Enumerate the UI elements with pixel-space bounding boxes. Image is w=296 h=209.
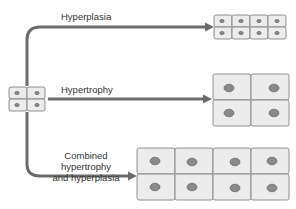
label-hyperplasia: Hyperplasia: [61, 11, 111, 22]
label-combined: Combined hypertrophy and hyperplasia: [38, 150, 134, 183]
label-hypertrophy: Hypertrophy: [61, 84, 113, 95]
arrow-hyperplasia: [27, 23, 214, 87]
label-combined-line1: Combined hypertrophy: [38, 150, 134, 172]
combined-cells: [137, 148, 289, 200]
hypertrophy-cells: [213, 74, 289, 126]
label-combined-line2: and hyperplasia: [38, 172, 134, 183]
hyperplasia-cells: [214, 15, 286, 39]
arrow-hypertrophy: [48, 95, 212, 104]
original-cells: [9, 87, 45, 111]
